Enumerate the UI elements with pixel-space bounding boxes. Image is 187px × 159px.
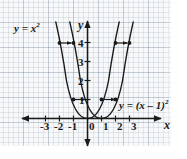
shift-arrow-top-left xyxy=(58,41,76,45)
y-tick-label-1: 1 xyxy=(79,95,85,106)
x-tick-label--1: -1 xyxy=(68,121,77,132)
y-tick-label-3: 3 xyxy=(78,57,84,68)
x-tick-label--2: -2 xyxy=(54,121,63,132)
x-tick-label-3: 3 xyxy=(131,121,137,132)
x-tick-label-2: 2 xyxy=(117,121,123,132)
curve-label-left-exponent: 2 xyxy=(36,21,40,29)
curve-label-right: y = (x – 1)2 xyxy=(119,99,168,111)
y-tick-label-2: 2 xyxy=(78,76,84,87)
y-tick-label-4: 4 xyxy=(78,38,84,49)
shift-arrow-low-right xyxy=(100,98,118,102)
graph-figure: y = x2 y = (x – 1)2 y x -3 -2 -1 0 1 2 3… xyxy=(0,0,187,159)
curve-label-left-text: y = x xyxy=(14,22,36,34)
curve-label-right-exponent: 2 xyxy=(165,98,169,106)
axis-label-x: x xyxy=(164,119,170,131)
curve-label-left: y = x2 xyxy=(14,22,40,34)
shift-arrow-top-right xyxy=(114,41,132,45)
curve-label-right-text: y = (x – 1) xyxy=(119,99,165,111)
x-tick-label-0: 0 xyxy=(89,121,95,132)
x-tick-label--3: -3 xyxy=(40,121,49,132)
x-tick-label-1: 1 xyxy=(103,121,109,132)
axis-label-y: y xyxy=(78,19,83,31)
